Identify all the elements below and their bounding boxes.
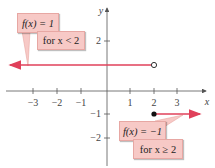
x-tick-label: −3	[28, 97, 39, 108]
x-tick-label: 3	[175, 97, 180, 108]
formula-text: f(x) = −1	[123, 126, 162, 137]
callout-piece-1-condition: for x < 2	[37, 31, 85, 50]
formula-text: f(x) = 1	[22, 18, 54, 29]
y-axis-label: y	[98, 5, 104, 16]
callout-piece-2-formula: f(x) = −1	[119, 121, 166, 141]
condition-text: for x < 2	[43, 35, 80, 46]
open-circle-endpoint	[151, 62, 156, 67]
callout-pointer-1	[22, 31, 30, 66]
closed-dot-endpoint	[151, 111, 156, 116]
y-tick-label: 2	[96, 35, 101, 46]
x-tick-label: 1	[128, 97, 133, 108]
condition-text: for x ≥ 2	[140, 144, 176, 155]
y-tick-label: −1	[90, 108, 101, 119]
x-tick-label: −2	[52, 97, 63, 108]
y-tick-label: −2	[90, 132, 101, 143]
callout-piece-2-condition: for x ≥ 2	[133, 139, 183, 159]
x-axis-label: x	[204, 96, 210, 107]
x-tick-label: −1	[76, 97, 87, 108]
callout-piece-1-formula: f(x) = 1	[17, 13, 59, 33]
x-tick-label: 2	[152, 97, 157, 108]
